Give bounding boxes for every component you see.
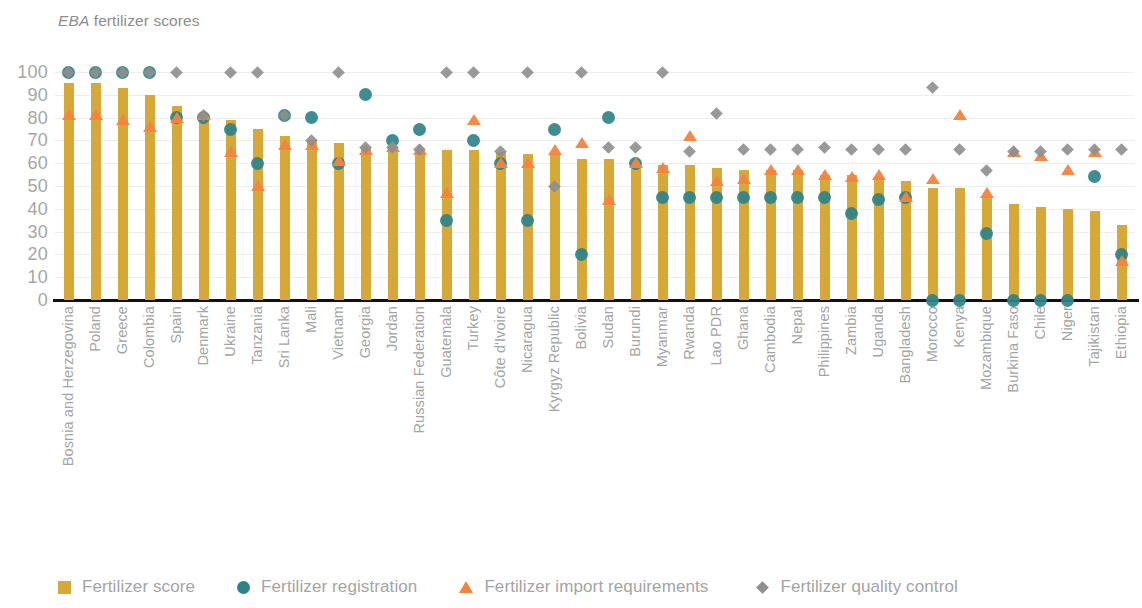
bar-fertilizer-score[interactable] [604,159,614,300]
marker-fertilizer-registration[interactable] [440,214,453,227]
bar-fertilizer-score[interactable] [523,154,533,300]
bar-fertilizer-score[interactable] [496,152,506,300]
marker-fertilizer-registration[interactable] [818,191,831,204]
marker-fertilizer-import-requirements[interactable] [602,194,616,205]
chart-column[interactable] [82,72,109,300]
marker-fertilizer-import-requirements[interactable] [143,121,157,132]
marker-fertilizer-import-requirements[interactable] [494,157,508,168]
marker-fertilizer-quality-control[interactable] [953,143,966,156]
marker-fertilizer-registration[interactable] [791,191,804,204]
marker-fertilizer-quality-control[interactable] [440,66,453,79]
marker-fertilizer-registration[interactable] [926,294,939,307]
chart-column[interactable] [325,72,352,300]
chart-column[interactable] [1108,72,1135,300]
marker-fertilizer-quality-control[interactable] [575,66,588,79]
bar-fertilizer-score[interactable] [469,150,479,300]
chart-column[interactable] [190,72,217,300]
marker-fertilizer-import-requirements[interactable] [683,130,697,141]
bar-fertilizer-score[interactable] [280,136,290,300]
chart-column[interactable] [460,72,487,300]
bar-fertilizer-score[interactable] [172,106,182,300]
marker-fertilizer-import-requirements[interactable] [629,157,643,168]
marker-fertilizer-import-requirements[interactable] [791,164,805,175]
chart-column[interactable] [703,72,730,300]
chart-column[interactable] [244,72,271,300]
chart-column[interactable] [649,72,676,300]
marker-fertilizer-quality-control[interactable] [629,141,642,154]
bar-fertilizer-score[interactable] [793,170,803,300]
chart-column[interactable] [163,72,190,300]
bar-fertilizer-score[interactable] [685,165,695,300]
marker-fertilizer-registration[interactable] [953,294,966,307]
chart-column[interactable] [1054,72,1081,300]
marker-fertilizer-quality-control[interactable] [467,66,480,79]
marker-fertilizer-registration[interactable] [683,191,696,204]
chart-column[interactable] [838,72,865,300]
chart-column[interactable] [811,72,838,300]
chart-column[interactable] [541,72,568,300]
chart-column[interactable] [919,72,946,300]
bar-fertilizer-score[interactable] [1063,209,1073,300]
marker-fertilizer-import-requirements[interactable] [818,169,832,180]
bar-fertilizer-score[interactable] [1009,204,1019,300]
marker-fertilizer-import-requirements[interactable] [548,144,562,155]
marker-fertilizer-quality-control[interactable] [791,143,804,156]
marker-fertilizer-registration[interactable] [1088,170,1101,183]
marker-fertilizer-registration[interactable] [305,111,318,124]
marker-fertilizer-registration[interactable] [359,88,372,101]
bar-fertilizer-score[interactable] [1090,211,1100,300]
marker-fertilizer-quality-control[interactable] [224,66,237,79]
marker-fertilizer-import-requirements[interactable] [251,180,265,191]
chart-column[interactable] [676,72,703,300]
marker-fertilizer-quality-control[interactable] [1061,143,1074,156]
chart-column[interactable] [487,72,514,300]
marker-fertilizer-import-requirements[interactable] [62,109,76,120]
marker-fertilizer-quality-control[interactable] [1115,143,1128,156]
marker-fertilizer-import-requirements[interactable] [710,175,724,186]
chart-column[interactable] [433,72,460,300]
legend-item[interactable]: Fertilizer quality control [756,577,957,597]
marker-fertilizer-quality-control[interactable] [602,141,615,154]
chart-column[interactable] [136,72,163,300]
bar-fertilizer-score[interactable] [361,147,371,300]
marker-fertilizer-registration[interactable] [575,248,588,261]
marker-fertilizer-import-requirements[interactable] [278,139,292,150]
marker-fertilizer-registration[interactable] [467,134,480,147]
bar-fertilizer-score[interactable] [739,170,749,300]
marker-fertilizer-import-requirements[interactable] [845,171,859,182]
bar-fertilizer-score[interactable] [982,197,992,300]
marker-fertilizer-import-requirements[interactable] [899,191,913,202]
marker-fertilizer-registration[interactable] [656,191,669,204]
bar-fertilizer-score[interactable] [388,147,398,300]
chart-column[interactable] [946,72,973,300]
bar-fertilizer-score[interactable] [712,168,722,300]
marker-fertilizer-import-requirements[interactable] [170,112,184,123]
chart-column[interactable] [406,72,433,300]
marker-fertilizer-quality-control[interactable] [764,143,777,156]
chart-column[interactable] [271,72,298,300]
marker-fertilizer-quality-control[interactable] [332,66,345,79]
chart-column[interactable] [730,72,757,300]
bar-fertilizer-score[interactable] [928,188,938,300]
marker-fertilizer-registration[interactable] [710,191,723,204]
marker-fertilizer-registration[interactable] [1007,294,1020,307]
chart-column[interactable] [1000,72,1027,300]
chart-column[interactable] [568,72,595,300]
marker-fertilizer-registration[interactable] [845,207,858,220]
marker-fertilizer-quality-control[interactable] [899,143,912,156]
chart-column[interactable] [352,72,379,300]
legend-item[interactable]: Fertilizer registration [237,577,417,597]
marker-fertilizer-quality-control[interactable] [818,141,831,154]
marker-fertilizer-quality-control[interactable] [251,66,264,79]
chart-column[interactable] [973,72,1000,300]
chart-column[interactable] [865,72,892,300]
bar-fertilizer-score[interactable] [415,150,425,300]
bar-fertilizer-score[interactable] [658,165,668,300]
bar-fertilizer-score[interactable] [766,170,776,300]
marker-fertilizer-registration[interactable] [737,191,750,204]
marker-fertilizer-import-requirements[interactable] [737,173,751,184]
marker-fertilizer-registration[interactable] [548,123,561,136]
legend-item[interactable]: Fertilizer score [58,577,195,597]
marker-fertilizer-registration[interactable] [413,123,426,136]
marker-fertilizer-quality-control[interactable] [683,145,696,158]
